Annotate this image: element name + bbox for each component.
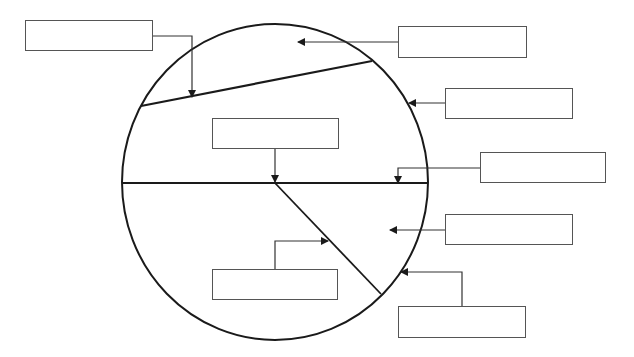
label-box-3[interactable]: [445, 88, 573, 119]
label-box-4[interactable]: [212, 118, 339, 149]
chord-line: [141, 61, 372, 106]
label-box-8[interactable]: [398, 306, 526, 338]
circle-parts-diagram: [0, 0, 634, 357]
label-box-7[interactable]: [212, 269, 338, 300]
connector-arrow-8: [401, 272, 462, 306]
connector-arrow-7: [275, 241, 328, 269]
label-box-1[interactable]: [25, 20, 153, 51]
label-box-2[interactable]: [398, 26, 527, 58]
connector-arrow-5: [398, 168, 480, 183]
connector-arrows: [153, 36, 480, 306]
label-box-5[interactable]: [480, 152, 606, 183]
connector-arrow-1: [153, 36, 192, 97]
label-box-6[interactable]: [445, 214, 573, 245]
